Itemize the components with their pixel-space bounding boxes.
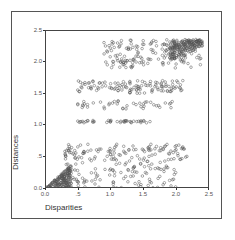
y-tick-mark — [43, 156, 45, 157]
data-point — [101, 82, 104, 85]
data-point — [155, 40, 158, 43]
data-point — [143, 92, 146, 95]
data-point — [187, 62, 190, 65]
y-tick-mark — [43, 61, 45, 62]
data-point — [101, 86, 104, 89]
data-point — [106, 155, 109, 158]
data-point — [173, 157, 176, 160]
y-tick-mark — [43, 124, 45, 125]
data-point — [97, 150, 100, 153]
x-tick-label: 2.0 — [166, 191, 186, 197]
y-tick-label: 2.0 — [24, 58, 42, 64]
data-point — [106, 51, 109, 54]
data-point — [103, 106, 106, 109]
data-point — [148, 155, 151, 158]
data-point — [161, 79, 164, 82]
x-tick-label: .5 — [68, 191, 88, 197]
data-point — [140, 105, 143, 108]
data-point — [174, 67, 177, 70]
data-point — [138, 158, 141, 161]
data-point — [170, 158, 173, 161]
data-point — [65, 163, 68, 166]
data-point — [109, 47, 112, 50]
data-point — [106, 64, 109, 67]
data-point — [120, 186, 123, 188]
data-point — [136, 120, 139, 123]
scatter-points — [45, 30, 209, 188]
x-tick-mark — [143, 188, 144, 190]
data-point — [132, 120, 135, 123]
data-point — [168, 85, 171, 88]
data-point — [149, 120, 152, 123]
data-point — [170, 185, 173, 188]
data-point — [171, 83, 174, 86]
data-point — [149, 168, 152, 171]
data-point — [109, 147, 112, 150]
data-point — [100, 148, 103, 151]
data-point — [106, 121, 109, 124]
data-point — [75, 163, 78, 166]
data-point — [157, 58, 160, 61]
data-point — [127, 181, 130, 184]
data-point — [168, 179, 171, 182]
data-point — [81, 161, 84, 164]
data-point — [129, 59, 132, 62]
data-point — [154, 167, 157, 170]
data-point — [131, 170, 134, 173]
data-point — [130, 43, 133, 46]
data-point — [135, 48, 138, 51]
data-point — [166, 39, 169, 42]
data-point — [154, 52, 157, 55]
data-point — [153, 104, 156, 107]
x-tick-mark — [45, 188, 46, 190]
data-point — [104, 168, 107, 171]
data-point — [125, 66, 128, 69]
data-point — [141, 47, 144, 50]
y-axis-label: Distances — [11, 135, 20, 170]
data-point — [116, 54, 119, 57]
data-point — [109, 56, 112, 59]
data-point — [73, 149, 76, 152]
data-point — [122, 80, 125, 83]
data-point — [103, 53, 106, 56]
data-point — [173, 168, 176, 171]
data-point — [147, 62, 150, 65]
data-point — [95, 149, 98, 152]
data-point — [116, 103, 119, 106]
data-point — [94, 178, 97, 181]
data-point — [116, 120, 119, 123]
data-point — [156, 82, 159, 85]
data-point — [139, 102, 142, 105]
data-point — [137, 184, 140, 187]
data-point — [119, 66, 122, 69]
data-point — [148, 164, 151, 167]
data-point — [157, 87, 160, 90]
data-point — [103, 41, 106, 44]
x-tick-label: 0.0 — [35, 191, 55, 197]
data-point — [159, 161, 162, 164]
data-point — [150, 143, 153, 146]
data-point — [120, 39, 123, 42]
data-point — [132, 175, 135, 178]
data-point — [124, 83, 127, 86]
data-point — [132, 102, 135, 105]
data-point — [89, 158, 92, 161]
data-point — [152, 186, 155, 188]
data-point — [113, 174, 116, 177]
y-tick-label: .5 — [24, 153, 42, 159]
data-point — [118, 46, 121, 49]
data-point — [142, 39, 145, 42]
data-point — [110, 49, 113, 52]
data-point — [135, 61, 138, 64]
data-point — [179, 84, 182, 87]
data-point — [74, 169, 77, 172]
data-point — [196, 56, 199, 59]
data-point — [108, 174, 111, 177]
data-point — [86, 106, 89, 109]
data-point — [151, 154, 154, 157]
data-point — [131, 156, 134, 159]
data-point — [115, 187, 118, 188]
x-tick-label: 1.5 — [133, 191, 153, 197]
data-point — [78, 173, 81, 176]
data-point — [140, 84, 143, 87]
